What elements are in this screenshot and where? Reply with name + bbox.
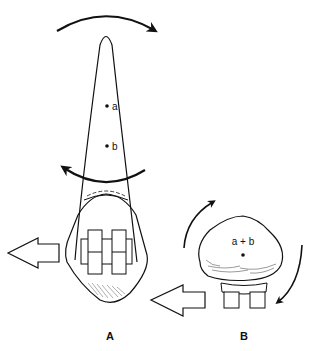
rotation-arrow-top-icon (57, 16, 154, 31)
rotation-arrow-bottom-icon (64, 168, 145, 182)
panel-a-label: A (106, 330, 114, 342)
tooth-force-diagram: a b A a + b B (0, 0, 311, 351)
diagram-canvas: a b A a + b B (0, 0, 311, 351)
tooth-root-outline (75, 37, 137, 263)
point-a-label: a (112, 101, 118, 112)
point-b-label: b (112, 141, 118, 152)
panel-b-label: B (240, 330, 248, 342)
force-arrow-a-icon (8, 238, 59, 268)
rotation-arrow-left-icon (184, 202, 213, 248)
bracket-b (221, 283, 267, 308)
force-arrow-b-icon (151, 285, 205, 316)
tooth-occlusal-outline (199, 216, 283, 281)
rotation-arrow-right-icon (278, 245, 302, 302)
panel-b: a + b B (151, 202, 302, 342)
bracket-a (81, 230, 132, 274)
center-label: a + b (232, 236, 255, 247)
panel-a: a b A (8, 16, 154, 342)
